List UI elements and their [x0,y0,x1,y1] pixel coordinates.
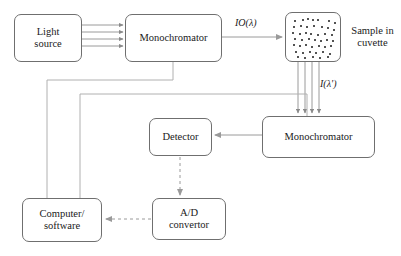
cuvette-particle-dot [301,39,303,41]
cuvette-particle-dot [293,26,295,28]
cuvette-particle-dot [311,46,313,48]
cuvette-particle-dot [292,32,294,34]
cuvette-particle-dot [302,52,304,54]
node-monochromator-2[interactable]: Monochromator [262,116,375,158]
cuvette-particle-dot [297,56,299,58]
cuvette-particle-dot [327,56,329,58]
cuvette-particle-dot [320,40,322,42]
cuvette-particle-dot [321,26,323,28]
computer-software-label: Computer/ software [37,208,88,232]
cuvette-particle-dot [319,57,321,59]
cuvette-particle-dot [329,53,331,55]
cuvette-particle-dot [322,51,324,53]
cuvette-particle-dot [308,38,310,40]
cuvette-particle-dot [305,32,307,34]
transmitted-intensity-label: I(λ') [320,78,336,89]
cuvette-particle-dot [328,20,330,22]
cuvette-particle-dot [324,33,326,35]
cuvette-particle-dot [314,39,316,41]
node-computer-software[interactable]: Computer/ software [22,198,102,242]
ad-convertor-label: A/D convertor [166,207,212,231]
cuvette-particle-dot [333,29,335,31]
node-detector[interactable]: Detector [149,118,212,156]
cuvette-particle-dot [313,25,315,27]
cuvette-particle-dot [294,20,296,22]
detector-label: Detector [159,131,201,143]
spectrophotometer-diagram: Light source Monochromator Sample in cuv… [0,0,401,256]
cuvette-particle-dot [317,19,319,21]
cuvette-particle-dot [299,33,301,35]
incident-intensity-label: IO(λ) [235,17,257,28]
cuvette-particle-dot [327,27,329,29]
node-sample-cuvette[interactable] [285,12,341,62]
node-ad-convertor[interactable]: A/D convertor [152,198,226,240]
cuvette-particle-dot [331,34,333,36]
cuvette-particle-dot [300,25,302,27]
light-source-label: Light source [31,26,64,50]
cuvette-particle-dot [307,18,309,20]
cuvette-particle-dot [309,51,311,53]
cuvette-particle-dot [312,19,314,21]
beam-source-to-monochromator1 [82,25,123,46]
cuvette-particle-dot [304,57,306,59]
beam-cuvette-to-monochromator2 [298,62,319,113]
sample-in-cuvette-label: Sample in cuvette [345,25,400,49]
cuvette-particle-dot [302,19,304,21]
cuvette-particle-dot [318,45,320,47]
node-monochromator-1[interactable]: Monochromator [125,14,222,62]
cuvette-particle-dot [334,22,336,24]
cuvette-particle-dot [310,33,312,35]
node-light-source[interactable]: Light source [14,14,82,62]
cuvette-particle-dot [324,46,326,48]
cuvette-particle-dot [332,40,334,42]
cuvette-particle-dot [306,26,308,28]
cuvette-particle-dot [305,44,307,46]
cuvette-particle-dot [315,52,317,54]
cuvette-particle-dot [317,34,319,36]
cuvette-particle-dot [299,45,301,47]
cuvette-particle-dot [326,39,328,41]
cuvette-particle-dot [330,45,332,47]
cuvette-particle-dot [294,38,296,40]
monochromator-1-label: Monochromator [136,32,210,44]
cuvette-particle-dot [312,56,314,58]
monochromator-2-label: Monochromator [281,131,355,143]
cuvette-particle-dot [295,51,297,53]
cuvette-particle-dot [293,44,295,46]
